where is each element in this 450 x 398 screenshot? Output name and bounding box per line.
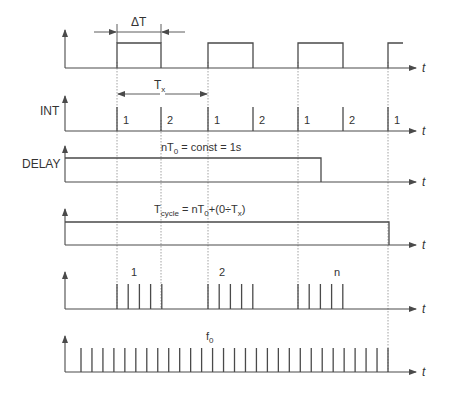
- f0-label: f0: [206, 330, 214, 345]
- signal-cycle: t Tcycle = nT0+(0÷Tx): [65, 203, 426, 252]
- burst-ticks: [117, 284, 343, 309]
- delay-waveform: [65, 158, 321, 182]
- time-axis-label: t: [422, 365, 426, 379]
- signal-clock: t f0: [65, 330, 426, 379]
- time-axis-label: t: [422, 238, 426, 252]
- cycle-waveform: [65, 222, 389, 245]
- time-axis-label: t: [422, 302, 426, 316]
- cycle-formula: Tcycle = nT0+(0÷Tx): [154, 203, 245, 218]
- tx-label: Tx: [154, 78, 165, 94]
- timing-diagram: t ΔT Tx INT t 1 2 1 2 1 2 1: [0, 0, 450, 398]
- signal-label-delay: DELAY: [22, 157, 60, 171]
- signal-label-int: INT: [40, 104, 60, 118]
- int-phase-label: 1: [214, 114, 220, 126]
- signal-trigger: t ΔT Tx: [65, 15, 426, 94]
- signal-bursts: t 1 2 n: [65, 266, 426, 316]
- delay-formula: nT0 = const = 1s: [161, 141, 242, 156]
- burst-label: 1: [131, 266, 137, 278]
- burst-label: 2: [219, 266, 225, 278]
- int-ticks: [117, 107, 388, 131]
- trigger-waveform: [117, 43, 403, 68]
- signal-int: INT t 1 2 1 2 1 2 1: [40, 96, 426, 138]
- time-axis-label: t: [422, 61, 426, 75]
- signal-delay: DELAY t nT0 = const = 1s: [22, 141, 426, 189]
- int-phase-label: 2: [259, 114, 265, 126]
- int-phase-label: 1: [304, 114, 310, 126]
- delta-t-label: ΔT: [131, 15, 147, 29]
- time-axis-label: t: [422, 175, 426, 189]
- int-phase-label: 2: [349, 114, 355, 126]
- time-axis-label: t: [422, 124, 426, 138]
- clock-ticks: [81, 348, 388, 372]
- int-phase-label: 1: [123, 114, 129, 126]
- int-phase-label: 1: [394, 114, 400, 126]
- int-phase-label: 2: [167, 114, 173, 126]
- burst-label: n: [334, 266, 340, 278]
